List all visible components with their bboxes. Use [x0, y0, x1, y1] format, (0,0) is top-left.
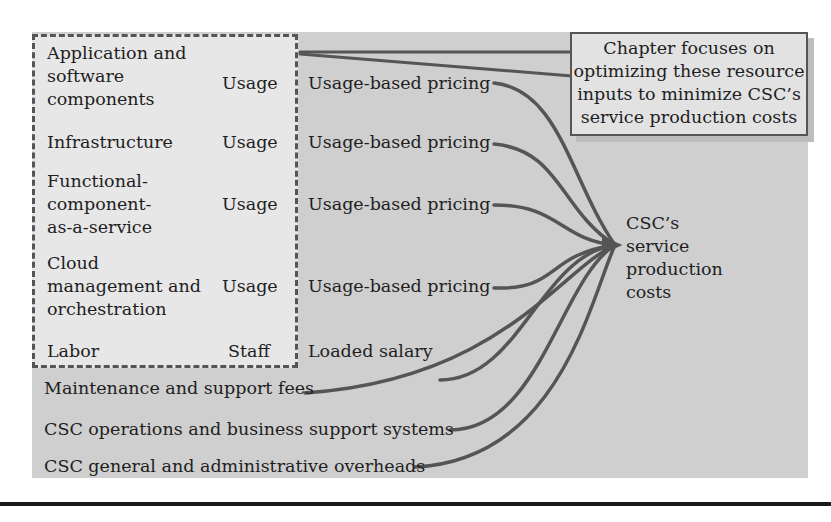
- resource-unit: Usage: [222, 275, 278, 298]
- resource-pricing: Loaded salary: [308, 340, 433, 363]
- resource-name: Infrastructure: [47, 131, 173, 154]
- bottom-rule: [0, 502, 831, 506]
- resource-name: Application and software components: [47, 42, 186, 111]
- resource-unit: Staff: [228, 340, 270, 363]
- callout-text: Chapter focuses on optimizing these reso…: [573, 38, 804, 127]
- target-label: CSC’s service production costs: [626, 212, 723, 304]
- other-cost-item: CSC operations and business support syst…: [44, 418, 454, 441]
- resource-name: Functional- component- as-a-service: [47, 170, 152, 239]
- resource-pricing: Usage-based pricing: [308, 275, 490, 298]
- resource-name: Labor: [47, 340, 99, 363]
- resource-unit: Usage: [222, 131, 278, 154]
- resource-pricing: Usage-based pricing: [308, 131, 490, 154]
- other-cost-item: CSC general and administrative overheads: [44, 455, 425, 478]
- resource-name: Cloud management and orchestration: [47, 252, 201, 321]
- callout-note: Chapter focuses on optimizing these reso…: [570, 32, 808, 136]
- resource-unit: Usage: [222, 193, 278, 216]
- resource-pricing: Usage-based pricing: [308, 72, 490, 95]
- other-cost-item: Maintenance and support fees: [44, 377, 314, 400]
- resource-pricing: Usage-based pricing: [308, 193, 490, 216]
- resource-unit: Usage: [222, 72, 278, 95]
